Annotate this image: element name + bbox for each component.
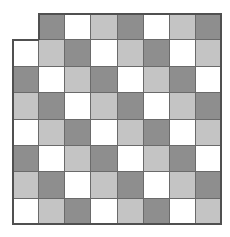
grid-cell (117, 145, 144, 172)
grid-cell (38, 92, 65, 119)
grid-cell (12, 119, 39, 146)
grid-cell (38, 13, 65, 40)
grid-cell (143, 92, 170, 119)
grid-cell (195, 198, 222, 225)
grid-cell (38, 171, 65, 198)
grid-cell (195, 171, 222, 198)
grid-cell (38, 66, 65, 93)
grid-cell (64, 39, 91, 66)
grid-cell (195, 39, 222, 66)
grid-cell (38, 119, 65, 146)
grid-cell (64, 92, 91, 119)
grid-cell (90, 198, 117, 225)
grid-cell (64, 198, 91, 225)
grid-cell (12, 92, 39, 119)
grid-cell (117, 171, 144, 198)
grid-cell (169, 66, 196, 93)
grid-cell (12, 171, 39, 198)
grid-cell (143, 171, 170, 198)
grid-cell (90, 119, 117, 146)
grid-cell (143, 13, 170, 40)
grid-cell (117, 198, 144, 225)
grid-cell (64, 145, 91, 172)
grid-cell (195, 92, 222, 119)
grid-cell (195, 145, 222, 172)
grid-cell (143, 66, 170, 93)
grid-cell (143, 39, 170, 66)
grid-cell (117, 119, 144, 146)
grid-cell (169, 39, 196, 66)
grid-cell (169, 119, 196, 146)
grid-outline (12, 39, 39, 41)
grid-cell (195, 119, 222, 146)
grid-cell (90, 66, 117, 93)
grid-cell (12, 198, 39, 225)
grid-cell (90, 39, 117, 66)
grid-cell (64, 13, 91, 40)
grid-cell (12, 145, 39, 172)
grid-cell (195, 13, 222, 40)
grid-cell (90, 13, 117, 40)
grid-cell (90, 145, 117, 172)
grid-cell (64, 66, 91, 93)
grid-cell (169, 13, 196, 40)
grid-cell (169, 145, 196, 172)
grid-cell (117, 92, 144, 119)
grid-cell (90, 92, 117, 119)
checkerboard-grid (12, 13, 221, 224)
grid-cell (64, 171, 91, 198)
grid-outline (12, 223, 222, 225)
grid-cell (143, 198, 170, 225)
grid-cell (64, 119, 91, 146)
grid-cell (90, 171, 117, 198)
grid-cell (117, 66, 144, 93)
grid-cell (117, 13, 144, 40)
grid-outline (38, 13, 40, 40)
grid-cell (143, 145, 170, 172)
grid-cell (12, 39, 39, 66)
grid-cell (38, 39, 65, 66)
grid-outline (220, 13, 222, 225)
grid-cell (117, 39, 144, 66)
grid-outline (38, 13, 222, 15)
grid-cell (169, 198, 196, 225)
grid-cell (12, 66, 39, 93)
grid-cell (38, 198, 65, 225)
grid-cell (143, 119, 170, 146)
grid-outline (12, 39, 14, 225)
grid-cell (169, 92, 196, 119)
grid-cell (169, 171, 196, 198)
grid-cell (195, 66, 222, 93)
grid-cell (38, 145, 65, 172)
